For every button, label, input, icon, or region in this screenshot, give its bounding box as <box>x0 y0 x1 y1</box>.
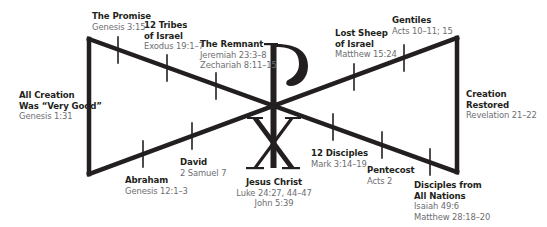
label-jesus-christ: Jesus Christ Luke 24:27, 44–47 John 5:39 <box>233 177 315 209</box>
label-title: Lost Sheep <box>335 28 397 39</box>
label-title: 12 Tribes <box>144 20 204 31</box>
label-title: All Creation <box>19 90 102 101</box>
label-david: David 2 Samuel 7 <box>180 157 226 178</box>
label-the-promise: The Promise Genesis 3:15 <box>92 11 151 32</box>
label-ref: Acts 2 <box>367 176 415 187</box>
label-12-disciples: 12 Disciples Mark 3:14–19 <box>311 148 368 169</box>
label-disciples-all-nations: Disciples from All Nations Isaiah 49:6 M… <box>414 180 490 222</box>
label-ref: Luke 24:27, 44–47 <box>233 188 315 199</box>
label-ref: Matthew 15:24 <box>335 49 397 60</box>
label-ref: Revelation 21–22 <box>466 110 537 121</box>
label-pentecost: Pentecost Acts 2 <box>367 165 415 186</box>
label-ref: Isaiah 49:6 <box>414 201 490 212</box>
label-gentiles: Gentiles Acts 10–11; 15 <box>392 15 453 36</box>
label-ref: Jeremiah 23:3–8 <box>200 50 277 61</box>
label-title: 12 Disciples <box>311 148 368 159</box>
label-title: of Israel <box>335 39 397 50</box>
label-title: Jesus Christ <box>233 177 315 188</box>
label-ref: Exodus 19:1–7 <box>144 41 204 52</box>
label-ref: Mark 3:14–19 <box>311 159 368 170</box>
label-title: All Nations <box>414 191 490 202</box>
label-ref: 2 Samuel 7 <box>180 168 226 179</box>
label-title: Gentiles <box>392 15 453 26</box>
label-ref: Genesis 1:31 <box>19 111 102 122</box>
label-title: Restored <box>466 100 537 111</box>
label-ref: Zechariah 8:11–15 <box>200 60 277 71</box>
label-title: Disciples from <box>414 180 490 191</box>
label-title: Pentecost <box>367 165 415 176</box>
label-ref: Genesis 12:1–3 <box>125 186 188 197</box>
label-ref: Acts 10–11; 15 <box>392 26 453 37</box>
label-creation-restored: Creation Restored Revelation 21–22 <box>466 89 537 121</box>
label-ref: John 5:39 <box>233 198 315 209</box>
label-12-tribes: 12 Tribes of Israel Exodus 19:1–7 <box>144 20 204 52</box>
label-all-creation: All Creation Was “Very Good” Genesis 1:3… <box>19 90 102 122</box>
label-the-remnant: The Remnant Jeremiah 23:3–8 Zechariah 8:… <box>200 39 277 71</box>
label-title: Creation <box>466 89 537 100</box>
label-abraham: Abraham Genesis 12:1–3 <box>125 175 188 196</box>
label-title: David <box>180 157 226 168</box>
label-title: The Promise <box>92 11 151 22</box>
label-lost-sheep: Lost Sheep of Israel Matthew 15:24 <box>335 28 397 60</box>
label-ref: Matthew 28:18–20 <box>414 212 490 223</box>
label-ref: Genesis 3:15 <box>92 22 151 33</box>
label-title: of Israel <box>144 31 204 42</box>
label-title: Abraham <box>125 175 188 186</box>
label-title: The Remnant <box>200 39 277 50</box>
label-title: Was “Very Good” <box>19 101 102 112</box>
